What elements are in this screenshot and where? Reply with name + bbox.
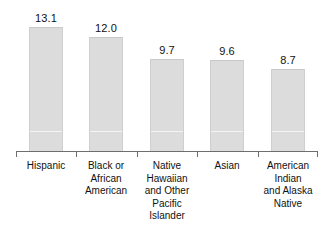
category-label-hispanic: Hispanic xyxy=(16,160,76,173)
category-label-line: Indian xyxy=(258,173,318,186)
bar-american-indian-and-alaska-native[interactable] xyxy=(271,69,305,152)
category-label-line: and Alaska xyxy=(258,185,318,198)
category-label-line: Hawaiian xyxy=(137,173,197,186)
category-label-line: and Other xyxy=(137,185,197,198)
category-label-line: American xyxy=(258,160,318,173)
x-axis-tick xyxy=(317,151,318,157)
category-label-line: African xyxy=(76,173,136,186)
bar-inner-gridline xyxy=(151,131,183,132)
x-axis-line xyxy=(16,151,318,152)
x-axis-tick xyxy=(258,151,259,157)
bar-hispanic[interactable] xyxy=(29,27,63,152)
x-axis-tick xyxy=(197,151,198,157)
category-label-line: Native xyxy=(258,198,318,211)
bar-inner-gridline xyxy=(272,131,304,132)
category-label-line: Hispanic xyxy=(16,160,76,173)
category-label-line: Islander xyxy=(137,210,197,223)
x-axis-tick xyxy=(137,151,138,157)
category-label-line: Black or xyxy=(76,160,136,173)
bar-chart: 13.1 12.0 9.7 9.6 8.7 xyxy=(0,0,330,232)
category-label-native-hawaiian-and-other-pacific-islander: Native Hawaiian and Other Pacific Island… xyxy=(137,160,197,223)
category-label-line: Native xyxy=(137,160,197,173)
bar-value-label: 8.7 xyxy=(258,54,318,67)
bar-inner-gridline xyxy=(90,131,122,132)
category-label-asian: Asian xyxy=(197,160,257,173)
bar-column: 9.7 xyxy=(137,4,197,152)
bar-asian[interactable] xyxy=(210,60,244,152)
bar-value-label: 9.7 xyxy=(137,44,197,57)
bar-column: 12.0 xyxy=(76,4,136,152)
bar-value-label: 12.0 xyxy=(76,22,136,35)
bar-column: 13.1 xyxy=(16,4,76,152)
bar-inner-gridline xyxy=(211,131,243,132)
plot-area: 13.1 12.0 9.7 9.6 8.7 xyxy=(16,4,318,152)
category-label-line: American xyxy=(76,185,136,198)
bar-column: 8.7 xyxy=(258,4,318,152)
bar-inner-gridline xyxy=(30,131,62,132)
bar-value-label: 9.6 xyxy=(197,45,257,58)
x-axis-category-labels: Hispanic Black or African American Nativ… xyxy=(16,160,318,230)
bar-column: 9.6 xyxy=(197,4,257,152)
category-label-american-indian-and-alaska-native: American Indian and Alaska Native xyxy=(258,160,318,210)
x-axis-tick xyxy=(16,151,17,157)
bar-native-hawaiian-and-other-pacific-islander[interactable] xyxy=(150,59,184,152)
x-axis-tick xyxy=(76,151,77,157)
category-label-black-or-african-american: Black or African American xyxy=(76,160,136,198)
category-label-line: Pacific xyxy=(137,198,197,211)
bar-value-label: 13.1 xyxy=(16,12,76,25)
category-label-line: Asian xyxy=(197,160,257,173)
bar-black-or-african-american[interactable] xyxy=(89,37,123,152)
